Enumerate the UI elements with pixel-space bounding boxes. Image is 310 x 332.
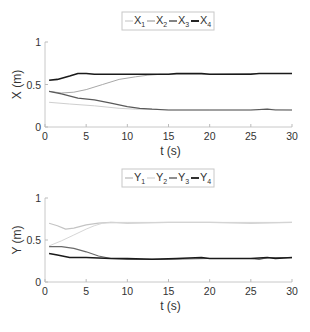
y-axis-label: Y (m) xyxy=(10,225,24,254)
series-group xyxy=(49,74,292,111)
x-tick-label: 0 xyxy=(42,130,48,142)
y-position-plot: 05101520253000.51t (s)Y (m)Y1Y2Y3Y4 xyxy=(0,166,310,332)
series-line-y1 xyxy=(49,222,292,229)
series-group xyxy=(49,222,292,259)
series-line-x1 xyxy=(49,102,292,110)
legend: X1X2X3X4 xyxy=(122,12,214,30)
y-tick-label: 0 xyxy=(35,121,41,133)
x-tick-label: 0 xyxy=(42,285,48,297)
x-tick-label: 25 xyxy=(245,285,257,297)
x-tick-label: 20 xyxy=(204,285,216,297)
x-tick-label: 15 xyxy=(163,130,175,142)
x-tick-label: 10 xyxy=(121,130,133,142)
series-line-x3 xyxy=(49,91,292,110)
series-line-y2 xyxy=(49,222,292,246)
y-tick-label: 0.5 xyxy=(26,234,41,246)
y-tick-label: 1 xyxy=(35,36,41,48)
x-axis-label: t (s) xyxy=(160,144,181,158)
x-tick-label: 15 xyxy=(163,285,175,297)
x-tick-label: 25 xyxy=(245,130,257,142)
y-axis-label: X (m) xyxy=(10,70,24,99)
series-line-x4 xyxy=(49,74,292,81)
x-tick-label: 20 xyxy=(204,130,216,142)
series-line-y4 xyxy=(49,253,292,259)
x-tick-label: 30 xyxy=(286,285,298,297)
y-tick-label: 1 xyxy=(35,192,41,204)
axes: 05101520253000.51 xyxy=(26,192,298,297)
x-tick-label: 30 xyxy=(286,130,298,142)
x-tick-label: 5 xyxy=(83,285,89,297)
axes: 05101520253000.51 xyxy=(26,36,298,142)
x-position-chart: 05101520253000.51t (s)X (m)X1X2X3X4 xyxy=(0,0,310,166)
y-tick-label: 0.5 xyxy=(26,79,41,91)
x-tick-label: 10 xyxy=(121,285,133,297)
x-axis-label: t (s) xyxy=(160,299,181,313)
x-position-plot: 05101520253000.51t (s)X (m)X1X2X3X4 xyxy=(0,0,310,166)
series-line-x2 xyxy=(49,74,292,94)
x-tick-label: 5 xyxy=(83,130,89,142)
legend: Y1Y2Y3Y4 xyxy=(122,169,214,187)
y-tick-label: 0 xyxy=(35,276,41,288)
y-position-chart: 05101520253000.51t (s)Y (m)Y1Y2Y3Y4 xyxy=(0,166,310,332)
